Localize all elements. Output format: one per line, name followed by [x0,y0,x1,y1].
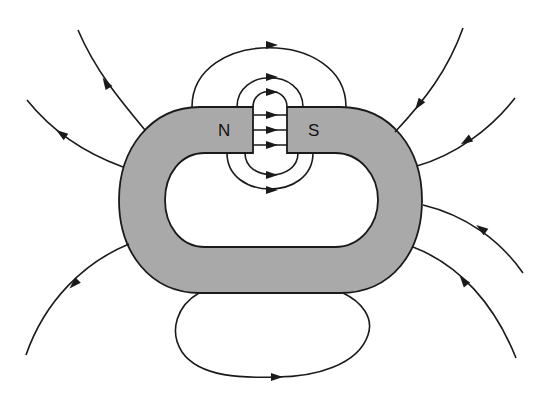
bottom-fringe-loops [227,153,313,194]
arrow-icon [456,273,470,287]
external-bottom-loop [176,293,370,381]
arrow-icon [266,141,278,149]
arrow-icon [266,111,278,119]
arrow-icon [266,88,278,96]
north-pole-label: N [218,121,230,140]
arrow-icon [99,76,112,90]
arrow-icon [266,73,278,81]
arrow-icon [266,171,278,179]
south-pole-label: S [308,121,319,140]
magnet-field-diagram: N S [0,0,536,412]
gap-field-lines [253,111,287,149]
arrow-icon [266,186,278,194]
ring-magnet [119,107,422,293]
arrow-icon [266,126,278,134]
arrow-icon [271,373,283,381]
top-fringe-loops [192,41,346,107]
